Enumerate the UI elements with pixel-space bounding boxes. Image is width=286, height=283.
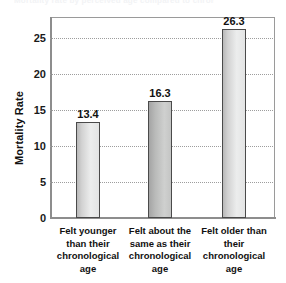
y-axis-title: Mortality Rate — [13, 68, 25, 188]
x-axis-category-label: Felt older thantheirchronologicalage — [197, 225, 271, 275]
y-axis-tick-label: 25 — [2, 32, 46, 44]
category-label-line: Felt about the — [123, 225, 197, 238]
category-label-line: age — [197, 263, 271, 276]
x-axis-category-label: Felt about thesame as theirchronological… — [123, 225, 197, 275]
bar-value-label: 26.3 — [214, 15, 254, 27]
category-label-line: age — [123, 263, 197, 276]
cropped-title-remnant: Mortality rate by perceived age compared… — [14, 0, 214, 5]
bar — [148, 101, 172, 218]
category-label-line: their — [197, 238, 271, 251]
x-axis-category-label: Felt youngerthan theirchronologicalage — [51, 225, 125, 275]
mortality-rate-bar-chart: Mortality rate by perceived age compared… — [0, 0, 286, 283]
category-label-line: same as their — [123, 238, 197, 251]
bar — [76, 122, 100, 218]
bar — [222, 29, 246, 218]
category-label-line: than their — [51, 238, 125, 251]
y-axis-tick-label: 0 — [2, 212, 46, 224]
y-axis-line — [50, 17, 52, 219]
category-label-line: age — [51, 263, 125, 276]
category-label-line: chronological — [197, 250, 271, 263]
bar-value-label: 16.3 — [140, 87, 180, 99]
category-label-line: chronological — [123, 250, 197, 263]
bar-value-label: 13.4 — [68, 108, 108, 120]
category-label-line: Felt older than — [197, 225, 271, 238]
category-label-line: Felt younger — [51, 225, 125, 238]
category-label-line: chronological — [51, 250, 125, 263]
